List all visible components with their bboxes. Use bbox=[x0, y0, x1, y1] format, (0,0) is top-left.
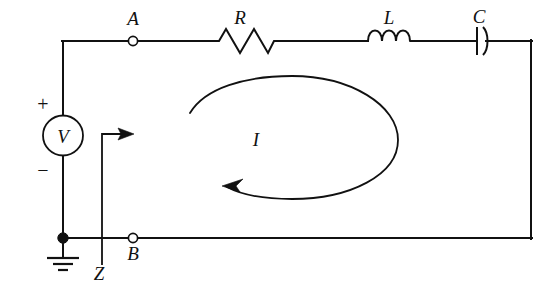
label-terminal-b: B bbox=[127, 244, 139, 263]
impedance-marker-path bbox=[102, 134, 122, 265]
circuit-schematic-svg bbox=[0, 0, 558, 297]
label-voltage-source: V bbox=[57, 127, 69, 146]
label-inductor: L bbox=[384, 8, 395, 27]
terminal-b-node bbox=[128, 233, 137, 242]
label-capacitor: C bbox=[473, 7, 486, 26]
terminal-a-node bbox=[128, 36, 137, 45]
current-loop-arrow bbox=[190, 76, 398, 199]
resistor-zigzag bbox=[212, 29, 279, 53]
label-polarity-minus: − bbox=[37, 160, 48, 180]
circuit-diagram-canvas: A R L C V + − B Z I bbox=[0, 0, 558, 297]
inductor-coil bbox=[368, 31, 410, 42]
label-current: I bbox=[253, 130, 259, 149]
current-loop-path bbox=[190, 76, 398, 199]
label-polarity-plus: + bbox=[37, 94, 48, 114]
label-terminal-a: A bbox=[127, 9, 139, 28]
label-impedance: Z bbox=[94, 264, 105, 283]
label-resistor: R bbox=[234, 8, 246, 27]
